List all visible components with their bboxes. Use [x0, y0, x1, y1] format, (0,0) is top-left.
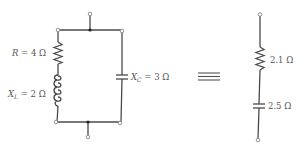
capacitor-label: XC = 3 Ω: [130, 72, 169, 83]
terminal-bottom: [256, 138, 260, 142]
corner-bottom-left: [54, 120, 58, 124]
parallel-circuit: R = 4 Ω XL = 2 Ω XC = 3 Ω: [7, 12, 169, 139]
equivalent-resistance-label: 2.1 Ω: [270, 55, 293, 65]
corner-bottom-right: [118, 121, 122, 125]
resistor-2-1ohm: [256, 47, 264, 70]
resistor-label: R = 4 Ω: [11, 48, 46, 58]
corner-top-right: [120, 29, 124, 33]
resistor-4ohm: [54, 42, 62, 64]
inductor-2ohm: [54, 75, 61, 106]
corner-top-left: [56, 28, 60, 32]
terminal-bottom: [86, 135, 90, 139]
inductor-label: XL = 2 Ω: [7, 89, 46, 100]
series-circuit: 2.1 Ω 2.5 Ω: [253, 13, 293, 142]
equivalent-reactance-label: 2.5 Ω: [268, 101, 291, 111]
circuit-diagram: R = 4 Ω XL = 2 Ω XC = 3 Ω 2.1 Ω 2.5 Ω: [0, 0, 307, 150]
junction-node-bottom: [86, 120, 89, 123]
rl-branch: [54, 30, 62, 122]
junction-node-top: [88, 28, 91, 31]
terminal-top: [88, 12, 92, 16]
c-branch: [116, 30, 128, 122]
terminal-top: [258, 13, 262, 17]
equivalence-symbol: [198, 73, 220, 80]
